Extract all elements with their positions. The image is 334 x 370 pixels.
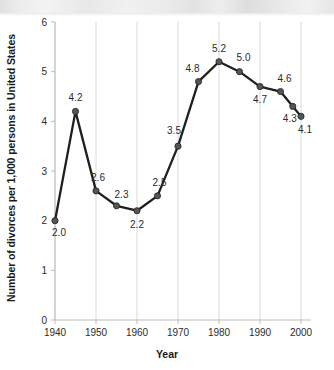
y-axis-tick-labels: 0123456	[41, 17, 47, 326]
line-chart-plot: 0123456 1940195019601970198019902000 2.0…	[0, 0, 334, 370]
y-tick-label: 4	[41, 116, 47, 127]
data-point-marker	[277, 88, 283, 94]
data-point-marker	[93, 188, 99, 194]
data-point-marker	[52, 218, 58, 224]
data-point-label: 4.2	[69, 92, 83, 103]
y-tick-label: 6	[41, 17, 47, 28]
data-point-marker	[72, 108, 78, 114]
data-point-marker	[134, 208, 140, 214]
data-point-label: 4.7	[253, 94, 267, 105]
data-point-marker	[113, 203, 119, 209]
y-axis-title-text: Number of divorces per 1,000 persons in …	[5, 34, 17, 302]
y-tick-label: 2	[41, 215, 47, 226]
y-tick-label: 3	[41, 166, 47, 177]
data-point-labels: 2.04.22.62.32.22.53.54.85.25.04.74.64.34…	[52, 43, 312, 238]
x-axis-tick-labels: 1940195019601970198019902000	[44, 327, 313, 338]
data-point-marker	[195, 79, 201, 85]
data-point-label: 3.5	[167, 125, 181, 136]
data-point-marker	[175, 143, 181, 149]
x-tick-label: 1980	[208, 327, 231, 338]
x-tick-label: 1940	[44, 327, 67, 338]
x-tick-label: 1970	[167, 327, 190, 338]
x-tick-label: 1950	[85, 327, 108, 338]
data-point-label: 5.0	[237, 52, 251, 63]
data-point-marker	[154, 193, 160, 199]
data-point-label: 4.1	[298, 124, 312, 135]
data-point-marker	[290, 103, 296, 109]
x-tick-label: 2000	[290, 327, 313, 338]
data-point-label: 4.6	[278, 73, 292, 84]
data-point-marker	[236, 69, 242, 75]
x-tick-label: 1960	[126, 327, 149, 338]
chart-figure: 0123456 1940195019601970198019902000 2.0…	[0, 0, 334, 370]
data-point-marker	[298, 113, 304, 119]
axis-lines	[51, 22, 311, 324]
data-point-label: 2.3	[115, 189, 129, 200]
data-point-label: 5.2	[212, 43, 226, 54]
y-tick-label: 5	[41, 66, 47, 77]
y-tick-label: 0	[41, 315, 47, 326]
data-point-label: 4.3	[283, 113, 297, 124]
data-point-label: 2.5	[153, 177, 167, 188]
y-axis-title: Number of divorces per 1,000 persons in …	[2, 18, 20, 318]
y-tick-label: 1	[41, 265, 47, 276]
data-point-marker	[216, 59, 222, 65]
x-axis-title: Year	[0, 348, 334, 360]
data-point-label: 2.0	[52, 227, 66, 238]
data-point-label: 2.2	[130, 219, 144, 230]
data-point-label: 2.6	[91, 172, 105, 183]
x-tick-label: 1990	[249, 327, 272, 338]
data-point-label: 4.8	[186, 63, 200, 74]
data-point-marker	[257, 83, 263, 89]
